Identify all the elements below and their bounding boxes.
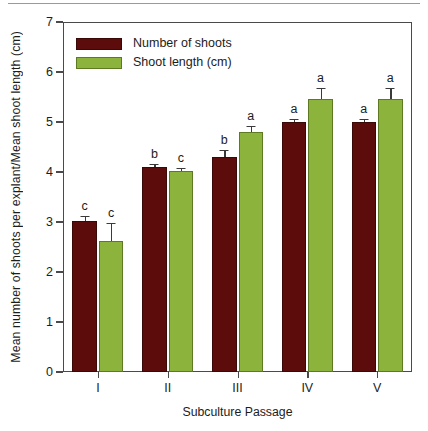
bar-shoot-length-III (239, 132, 264, 372)
significance-letter: a (247, 109, 254, 122)
bar-number-of-shoots-IV (282, 122, 307, 373)
bar-number-of-shoots-II (142, 167, 167, 372)
error-bar-cap (386, 88, 395, 89)
error-bar-cap (290, 119, 299, 120)
bar-number-of-shoots-V (352, 122, 377, 372)
significance-letter: c (108, 207, 114, 220)
figure-bar-chart: 01234567IccIIbcIIIbaIVaaVaa Mean number … (0, 0, 428, 431)
error-bar-cap (246, 126, 255, 127)
significance-letter: a (360, 102, 367, 115)
legend-label: Number of shoots (133, 37, 232, 50)
y-axis-tick-label: 4 (46, 166, 53, 179)
x-axis-tick-mark (168, 372, 169, 378)
significance-letter: a (387, 72, 394, 85)
y-axis-tick-mark (56, 171, 63, 172)
y-axis-tick-label: 7 (46, 16, 53, 29)
y-axis-tick-mark (56, 271, 63, 272)
y-axis-tick-label: 6 (46, 66, 53, 79)
legend-item: Shoot length (cm) (76, 55, 232, 70)
significance-letter: b (151, 147, 158, 160)
x-axis-tick-mark (377, 372, 378, 378)
error-bar-cap (107, 223, 116, 224)
x-axis-tick-mark (98, 372, 99, 378)
error-bar-cap (80, 216, 89, 217)
bar-shoot-length-IV (308, 99, 333, 372)
bar-number-of-shoots-I (72, 221, 97, 373)
x-axis-tick-label: I (96, 382, 99, 395)
y-axis-tick-mark (56, 121, 63, 122)
significance-letter: a (317, 71, 324, 84)
bar-shoot-length-I (99, 241, 124, 373)
y-axis-tick-mark (56, 371, 63, 372)
y-axis-tick-label: 3 (46, 216, 53, 229)
significance-letter: c (82, 200, 88, 213)
y-axis-tick-mark (56, 21, 63, 22)
x-axis-tick-label: V (373, 382, 381, 395)
error-bar-cap (316, 88, 325, 89)
x-axis-tick-mark (238, 372, 239, 378)
error-bar (390, 88, 391, 99)
header-divider (8, 3, 420, 4)
x-axis-tick-label: II (164, 382, 171, 395)
significance-letter: c (178, 151, 184, 164)
significance-letter: b (221, 134, 228, 147)
error-bar-cap (150, 164, 159, 165)
legend-swatch (76, 38, 122, 50)
bar-number-of-shoots-III (212, 157, 237, 372)
error-bar-cap (176, 168, 185, 169)
y-axis-title: Mean number of shoots per explant/Mean s… (7, 22, 25, 372)
y-axis-tick-mark (56, 221, 63, 222)
y-axis-title-text: Mean number of shoots per explant/Mean s… (9, 31, 23, 363)
x-axis-tick-label: IV (301, 382, 313, 395)
significance-letter: a (291, 102, 298, 115)
y-axis-tick-label: 5 (46, 116, 53, 129)
plot-area: 01234567IccIIbcIIIbaIVaaVaa (63, 22, 412, 372)
legend-label: Shoot length (cm) (133, 56, 232, 69)
legend-swatch (76, 57, 122, 69)
x-axis-tick-mark (307, 372, 308, 378)
bar-shoot-length-II (169, 171, 194, 373)
y-axis-tick-label: 2 (46, 266, 53, 279)
legend-item: Number of shoots (76, 36, 232, 51)
chart-legend: Number of shootsShoot length (cm) (76, 36, 232, 74)
y-axis-tick-mark (56, 321, 63, 322)
y-axis-tick-label: 0 (46, 366, 53, 379)
error-bar-cap (359, 119, 368, 120)
bar-shoot-length-V (378, 99, 403, 372)
error-bar-cap (220, 150, 229, 151)
x-axis-title: Subculture Passage (63, 405, 412, 419)
x-axis-title-text: Subculture Passage (182, 405, 292, 419)
y-axis-tick-mark (56, 71, 63, 72)
error-bar (321, 88, 322, 100)
error-bar (111, 223, 112, 241)
y-axis-tick-label: 1 (46, 316, 53, 329)
x-axis-tick-label: III (232, 382, 242, 395)
